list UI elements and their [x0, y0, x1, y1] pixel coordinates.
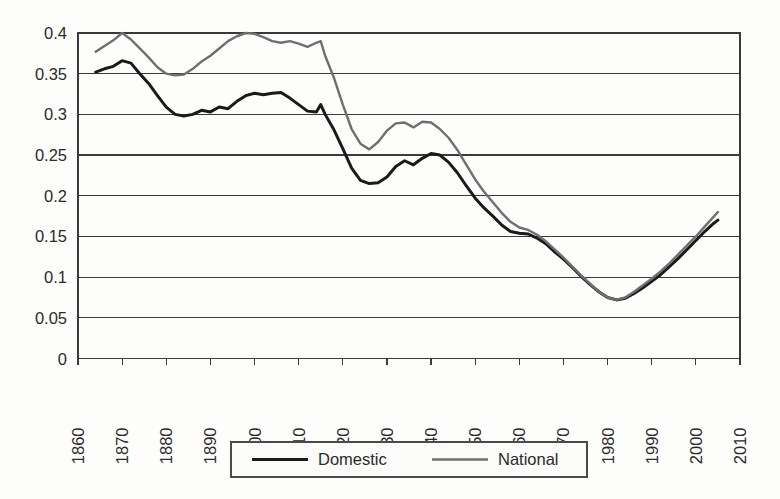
x-axis-tick-label: 1980 — [599, 428, 617, 465]
y-axis-tick-label: 0.4 — [44, 24, 67, 42]
chart-figure: 00.050.10.150.20.250.30.350.4 1860187018… — [0, 0, 780, 499]
series-line-national — [96, 33, 718, 300]
x-axis-tick-label: 1890 — [201, 428, 219, 465]
y-axis-tick-label: 0.3 — [44, 105, 67, 123]
x-axis-tick-label: 1860 — [69, 428, 87, 465]
line-chart: 00.050.10.150.20.250.30.350.4 1860187018… — [0, 0, 780, 499]
x-axis-tick-label: 1870 — [113, 428, 131, 465]
x-axis-tick-label: 1990 — [643, 428, 661, 465]
x-axis-tick-label: 2010 — [731, 428, 749, 465]
y-axis-tick-label: 0.2 — [44, 187, 67, 205]
x-axis-tickmarks — [78, 359, 740, 365]
x-axis-tick-label: 2000 — [687, 428, 705, 465]
gridlines — [78, 74, 740, 318]
y-axis-tick-label: 0.25 — [35, 146, 67, 164]
legend-label-domestic: Domestic — [318, 450, 387, 468]
y-axis-tick-label: 0.15 — [35, 227, 67, 245]
y-axis-tick-label: 0.05 — [35, 309, 67, 327]
y-axis-tick-labels: 00.050.10.150.20.250.30.350.4 — [35, 24, 67, 368]
data-series-group — [96, 33, 718, 300]
x-axis-tick-label: 1880 — [157, 428, 175, 465]
series-line-domestic — [96, 61, 718, 300]
legend-label-national: National — [498, 450, 559, 468]
y-axis-tick-label: 0 — [58, 350, 67, 368]
y-axis-tick-label: 0.1 — [44, 268, 67, 286]
y-axis-tick-label: 0.35 — [35, 65, 67, 83]
